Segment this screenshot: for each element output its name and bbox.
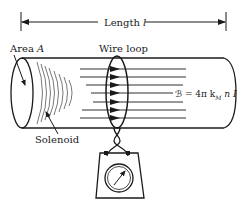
solenoid-label: Solenoid xyxy=(35,134,80,145)
solenoid-windings xyxy=(37,62,72,124)
wire-loop xyxy=(106,56,128,156)
wire-loop-label: Wire loop xyxy=(99,43,148,54)
meter-needle xyxy=(114,171,125,185)
galvanometer xyxy=(96,151,144,198)
field-equation: ℬ = 4π kM n I xyxy=(175,89,237,101)
solenoid-left-end xyxy=(11,58,33,128)
length-dimension: Length l xyxy=(21,12,226,31)
solenoid-diagram: Length l Area A Wire loop Solenoid xyxy=(0,0,251,205)
area-label: Area A xyxy=(9,43,44,54)
magnetic-field-lines xyxy=(80,66,186,121)
solenoid-pointer-arrow xyxy=(46,112,58,134)
length-label: Length l xyxy=(104,17,146,28)
